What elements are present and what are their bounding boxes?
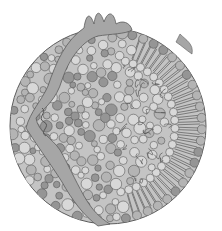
protein-cap xyxy=(176,34,192,54)
lipoprotein-diagram xyxy=(0,0,222,231)
